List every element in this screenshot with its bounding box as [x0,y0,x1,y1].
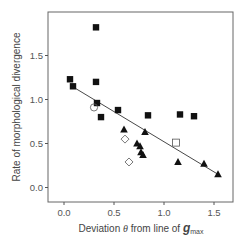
square-open-marker [173,139,180,146]
square-filled-marker [93,24,99,30]
square-filled-marker [115,107,121,113]
diamond-open-marker [125,158,133,166]
x-tick-label: 0.0 [57,207,70,218]
triangle-filled-marker [214,170,222,177]
x-axis-label: Deviation θ from line of gmax [79,221,204,235]
scatter-chart: 0.00.51.01.5 0.00.51.01.5 Rate of morpho… [0,0,247,246]
x-tick-label: 1.0 [157,207,170,218]
square-filled-marker [98,114,104,120]
square-filled-marker [93,79,99,85]
triangle-filled-marker [174,158,182,165]
diamond-open-marker [121,135,129,143]
x-label-prefix: Deviation [79,223,123,234]
triangle-filled-marker [120,125,128,132]
plot-frame [48,12,233,202]
square-filled-marker [191,113,197,119]
y-tick-label: 0.5 [30,138,43,149]
y-tick-label: 0.0 [30,182,43,193]
square-filled-marker [67,76,73,82]
square-filled-marker [177,111,183,117]
y-axis: 0.00.51.01.5 [30,50,48,193]
x-label-sub: max [190,228,204,235]
y-axis-label: Rate of morphological divergence [11,32,22,181]
y-tick-label: 1.0 [30,94,43,105]
x-label-middle: from line of [128,223,183,234]
y-tick-label: 1.5 [30,50,43,61]
square-filled-marker [145,112,151,118]
x-axis: 0.00.51.01.5 [57,202,220,218]
square-filled-marker [70,83,76,89]
x-tick-label: 1.5 [207,207,220,218]
x-tick-label: 0.5 [107,207,120,218]
data-points [67,24,222,177]
triangle-filled-marker [200,160,208,167]
